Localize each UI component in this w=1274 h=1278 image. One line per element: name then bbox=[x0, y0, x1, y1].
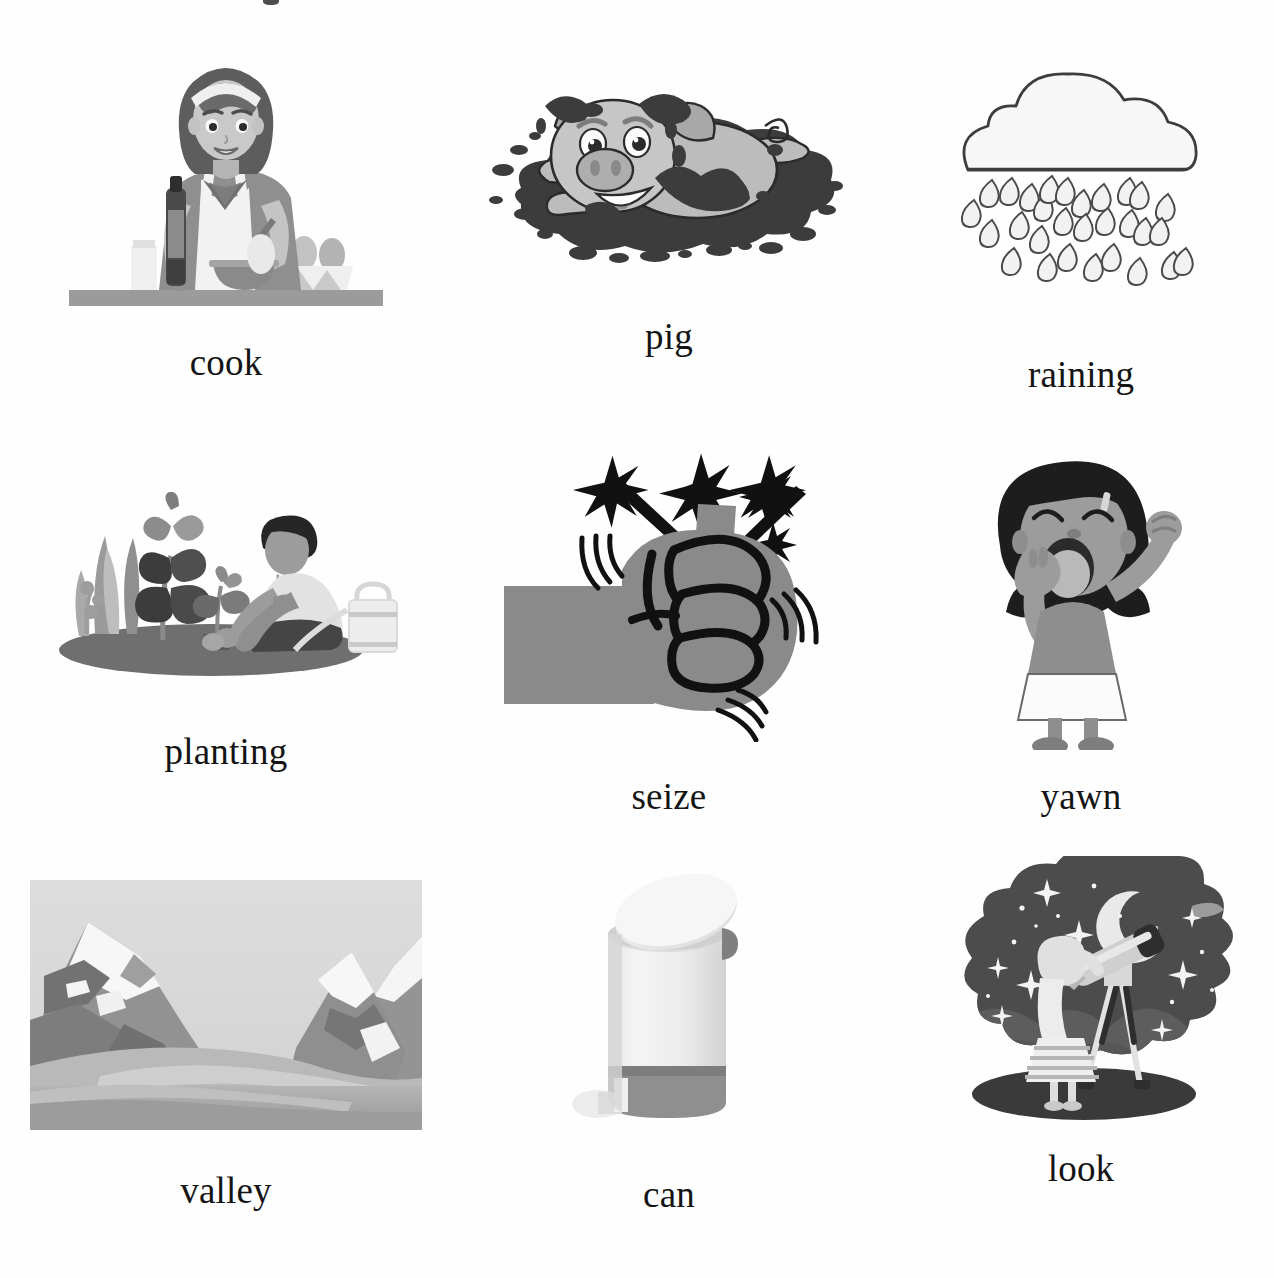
card-seize[interactable]: seize bbox=[446, 420, 892, 838]
card-label-cook: cook bbox=[190, 344, 263, 381]
card-look[interactable]: look bbox=[892, 838, 1274, 1278]
planting-illustration bbox=[51, 492, 401, 691]
look-illustration bbox=[926, 856, 1236, 1130]
valley-photo bbox=[30, 880, 422, 1134]
card-yawn[interactable]: yawn bbox=[892, 420, 1274, 838]
card-can[interactable]: can bbox=[446, 838, 892, 1278]
card-label-valley: valley bbox=[180, 1172, 272, 1209]
cook-illustration bbox=[61, 48, 391, 322]
card-label-can: can bbox=[643, 1176, 695, 1213]
pig-illustration bbox=[479, 78, 859, 282]
worksheet-sheet: cook bbox=[0, 0, 1274, 1278]
card-raining[interactable]: raining bbox=[892, 0, 1274, 420]
card-label-look: look bbox=[1048, 1150, 1115, 1187]
picture-word-grid: cook bbox=[0, 0, 1274, 1278]
card-cook[interactable]: cook bbox=[0, 0, 446, 420]
yawn-illustration bbox=[956, 450, 1206, 754]
card-label-raining: raining bbox=[1028, 356, 1134, 393]
card-valley[interactable]: valley bbox=[0, 838, 446, 1278]
card-pig[interactable]: pig bbox=[446, 0, 892, 420]
card-planting[interactable]: planting bbox=[0, 420, 446, 838]
card-label-seize: seize bbox=[632, 778, 707, 815]
raining-illustration bbox=[946, 42, 1216, 336]
seize-illustration bbox=[504, 442, 834, 746]
card-label-yawn: yawn bbox=[1041, 778, 1122, 815]
card-label-pig: pig bbox=[645, 318, 693, 355]
can-illustration bbox=[564, 866, 774, 1140]
card-label-planting: planting bbox=[165, 733, 288, 770]
